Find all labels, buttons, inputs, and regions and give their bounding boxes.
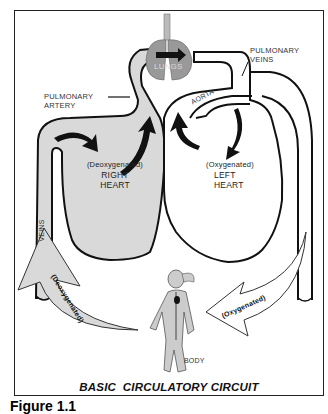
- diagram-title: BASIC CIRCULATORY CIRCUIT: [14, 381, 324, 393]
- left-heart-label: (Oxygenated) LEFT HEART: [206, 160, 254, 190]
- right-heart-line2: HEART: [82, 180, 148, 190]
- pulmonary-artery-label: PULMONARY ARTERY: [44, 92, 93, 110]
- right-heart-line1: RIGHT: [82, 170, 148, 180]
- left-heart-line2: HEART: [206, 180, 254, 190]
- body-label: BODY: [184, 356, 205, 365]
- pulmonary-artery-line2: ARTERY: [44, 101, 93, 110]
- left-heart-line1: LEFT: [206, 170, 254, 180]
- pulmonary-artery-line1: PULMONARY: [44, 92, 93, 101]
- figure-caption: Figure 1.1: [10, 398, 76, 414]
- veins-label: VEINS: [37, 219, 46, 241]
- left-heart-state: (Oxygenated): [206, 160, 254, 170]
- right-heart-label: (Deoxygenated) RIGHT HEART: [82, 160, 148, 190]
- right-heart-state: (Deoxygenated): [82, 160, 148, 170]
